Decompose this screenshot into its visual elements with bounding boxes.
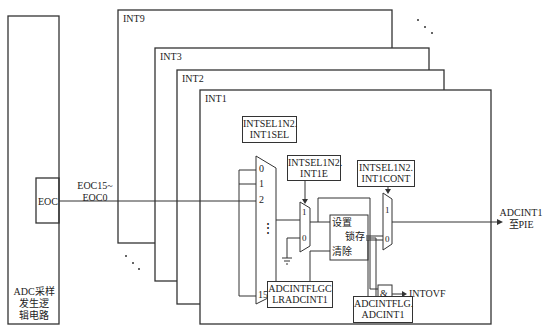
bus-label-line-1: EOC15~ — [70, 180, 120, 192]
latch-clear-label: 清除 — [332, 246, 352, 258]
mux16-input-0: 0 — [259, 163, 264, 175]
register-flag-line-2: ADCINT1 — [354, 309, 412, 321]
register-flag-clear-line-2: LRADCINT1 — [268, 294, 332, 306]
layer-label-int1: INT1 — [205, 93, 227, 105]
register-flag-clear: ADCINTFLGC LRADCINT1 — [267, 281, 333, 308]
eoc-label: EOC — [38, 196, 58, 208]
enable-mux-input-0: 0 — [302, 232, 307, 244]
adc-label-line-2: 发生逻 — [9, 298, 59, 310]
cont-mux-input-1: 1 — [385, 204, 390, 216]
bus-label-line-2: EOC0 — [70, 192, 120, 204]
adc-block-outline — [8, 16, 59, 324]
output-label-line-2: 至PIE — [497, 219, 545, 231]
output-label: ADCINT1 至PIE — [497, 207, 545, 231]
register-int-sel-line-2: INT1SEL — [243, 129, 296, 141]
cont-mux-input-0: 0 — [385, 233, 390, 245]
register-int-enable-line-2: INT1E — [288, 168, 340, 180]
latch-latch-label: 锁存 — [345, 231, 365, 243]
latch-set-label: 设置 — [332, 217, 352, 229]
register-int-sel: INTSEL1N2. INT1SEL — [242, 116, 297, 143]
layer-label-int9: INT9 — [123, 13, 145, 25]
eoc-bus-label: EOC15~ EOC0 — [70, 180, 120, 204]
intovf-label: INTOVF — [409, 288, 445, 300]
register-int-cont: INTSEL1N2. INT1CONT — [357, 160, 415, 187]
register-flag: ADCINTFLG. ADCINT1 — [353, 296, 413, 323]
adc-block-label: ADC采样 发生逻 辑电路 — [9, 286, 59, 322]
mux16-input-2: 2 — [259, 194, 264, 206]
mux16-input-1: 1 — [259, 178, 264, 190]
register-int-cont-line-2: INT1CONT — [358, 173, 414, 185]
adc-label-line-3: 辑电路 — [9, 310, 59, 322]
mux16-input-15: 15 — [258, 289, 268, 301]
layer-label-int2: INT2 — [182, 73, 204, 85]
adc-label-line-1: ADC采样 — [9, 286, 59, 298]
and-gate-symbol: & — [380, 288, 388, 300]
enable-mux-input-1: 1 — [302, 206, 307, 218]
output-label-line-1: ADCINT1 — [497, 207, 545, 219]
layer-label-int3: INT3 — [160, 51, 182, 63]
register-int-enable: INTSEL1N2. INT1E — [287, 155, 341, 181]
mux16-input-ellipsis: ⋮ — [261, 223, 275, 235]
